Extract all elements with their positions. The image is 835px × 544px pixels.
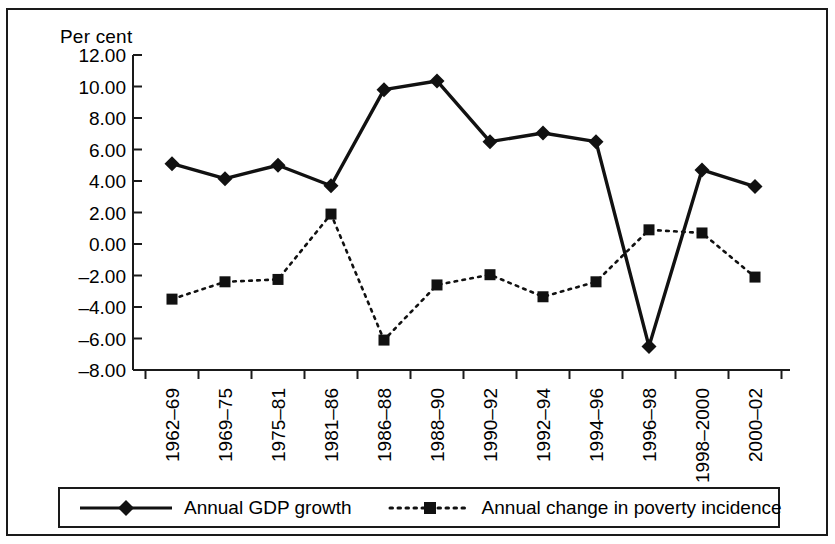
- y-tick-label: 8.00: [89, 108, 126, 129]
- poverty-data-point: [220, 276, 231, 287]
- gdp-data-point: [324, 178, 339, 193]
- gdp-data-point: [748, 179, 763, 194]
- x-tick-label: 1998–2000: [692, 388, 713, 483]
- x-tick-label: 1986–88: [374, 388, 395, 462]
- x-tick-label: 1962–69: [162, 388, 183, 462]
- x-tick-label: 1988–90: [427, 388, 448, 462]
- x-tick-label: 2000–02: [745, 388, 766, 462]
- poverty-data-point: [644, 224, 655, 235]
- poverty-line-path: [172, 214, 755, 340]
- y-axis-tick-marks: [133, 55, 142, 370]
- y-tick-label: –6.00: [78, 329, 126, 350]
- x-tick-label: 1990–92: [480, 388, 501, 462]
- y-tick-label: 12.00: [78, 45, 126, 66]
- poverty-data-point: [379, 335, 390, 346]
- x-tick-label: 1996–98: [639, 388, 660, 462]
- gdp-data-point: [589, 134, 604, 149]
- legend-label-poverty: Annual change in poverty incidence: [482, 497, 782, 519]
- poverty-data-point: [432, 279, 443, 290]
- gdp-data-point: [271, 158, 286, 173]
- legend-item-gdp: Annual GDP growth: [78, 497, 352, 519]
- x-tick-label: 1981–86: [321, 388, 342, 462]
- legend: Annual GDP growth Annual change in pover…: [58, 487, 780, 528]
- poverty-data-point: [750, 272, 761, 283]
- poverty-data-point: [326, 209, 337, 220]
- poverty-data-point: [538, 291, 549, 302]
- gdp-data-point: [642, 339, 657, 354]
- x-tick-label: 1992–94: [533, 388, 554, 462]
- y-tick-label: 10.00: [78, 77, 126, 98]
- gdp-data-point: [218, 171, 233, 186]
- y-tick-label: –2.00: [78, 266, 126, 287]
- x-tick-label: 1994–96: [586, 388, 607, 462]
- y-tick-label: 2.00: [89, 203, 126, 224]
- gdp-data-point: [377, 82, 392, 97]
- legend-sample-solid-diamond-icon: [78, 497, 174, 519]
- y-tick-label: –4.00: [78, 297, 126, 318]
- y-tick-label: –8.00: [78, 360, 126, 381]
- chart-figure: Per cent 12.0010.008.006.004.002.000.00–…: [0, 0, 835, 544]
- legend-label-gdp: Annual GDP growth: [184, 497, 352, 519]
- gdp-line-path: [172, 81, 755, 346]
- gdp-data-point: [165, 156, 180, 171]
- poverty-data-point: [167, 294, 178, 305]
- poverty-data-point: [697, 227, 708, 238]
- series-markers-gdp: [165, 73, 763, 353]
- legend-sample-dotted-square-icon: [388, 497, 472, 519]
- poverty-data-point: [273, 274, 284, 285]
- y-tick-label: 0.00: [89, 234, 126, 255]
- x-axis-tick-labels: 1962–691969–751975–811981–861986–881988–…: [162, 388, 766, 484]
- poverty-data-point: [485, 269, 496, 280]
- y-axis-tick-labels: 12.0010.008.006.004.002.000.00–2.00–4.00…: [78, 45, 126, 381]
- legend-item-poverty: Annual change in poverty incidence: [388, 497, 782, 519]
- gdp-data-point: [695, 162, 710, 177]
- gdp-data-point: [536, 125, 551, 140]
- y-tick-label: 4.00: [89, 171, 126, 192]
- y-tick-label: 6.00: [89, 140, 126, 161]
- x-tick-label: 1975–81: [268, 388, 289, 462]
- x-axis-tick-marks: [146, 370, 782, 379]
- series-line-poverty: [172, 214, 755, 340]
- x-tick-label: 1969–75: [215, 388, 236, 462]
- series-line-gdp: [172, 81, 755, 346]
- plot-area: 12.0010.008.006.004.002.000.00–2.00–4.00…: [0, 0, 835, 544]
- poverty-data-point: [591, 276, 602, 287]
